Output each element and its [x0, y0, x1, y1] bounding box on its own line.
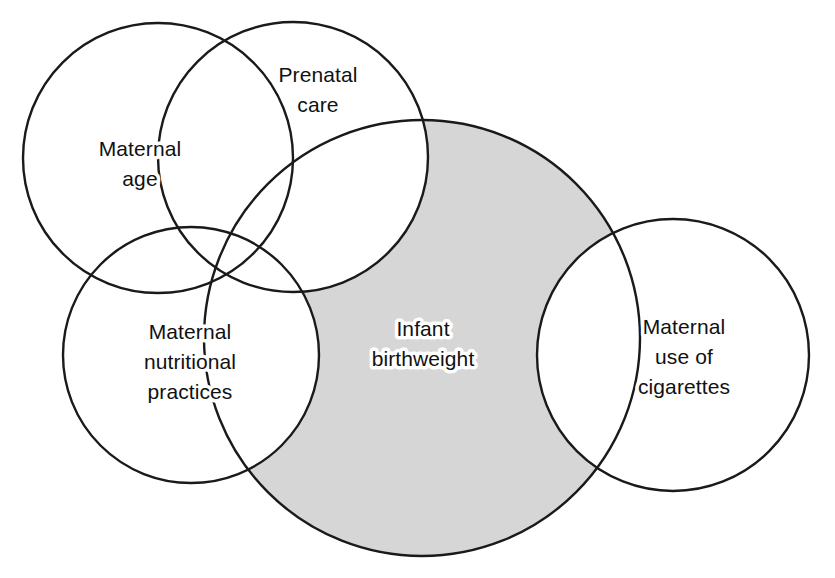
label-maternal-nutritional-practices: Maternal nutritional practices Maternal …	[144, 320, 236, 403]
label-maternal-age-line1: Maternal	[99, 137, 182, 160]
label-nutritional-line1: Maternal	[149, 320, 232, 343]
label-nutritional-line3: practices	[148, 380, 233, 403]
label-cigarettes-line1: Maternal	[643, 315, 726, 338]
label-nutritional-line2: nutritional	[144, 350, 236, 373]
label-infant-line2: birthweight	[372, 347, 475, 370]
venn-diagram-canvas: Maternal age Maternal age Prenatal care …	[0, 0, 835, 578]
label-infant-line1: Infant	[396, 317, 449, 340]
label-prenatal-care-line1: Prenatal	[278, 63, 357, 86]
venn-diagram-svg: Maternal age Maternal age Prenatal care …	[0, 0, 835, 578]
label-cigarettes-line3: cigarettes	[638, 375, 730, 398]
label-maternal-age-line2: age	[122, 167, 157, 190]
label-cigarettes-line2: use of	[655, 345, 713, 368]
label-prenatal-care-line2: care	[297, 93, 338, 116]
